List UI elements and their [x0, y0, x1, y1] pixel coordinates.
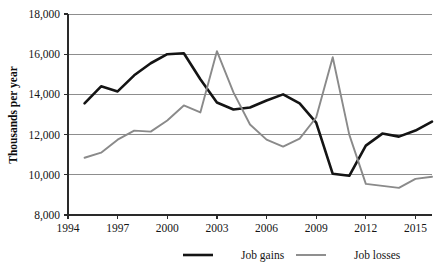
axis-tick-marks [64, 14, 415, 219]
job-gains-losses-chart: 8,00010,00012,00014,00016,00018,000 1994… [0, 0, 441, 273]
y-axis-tick-labels: 8,00010,00012,00014,00016,00018,000 [28, 8, 60, 222]
x-axis-tick-label: 2009 [305, 222, 328, 234]
chart-canvas: 8,00010,00012,00014,00016,00018,000 1994… [0, 0, 441, 273]
series-line-job-gains [85, 53, 432, 176]
y-axis-tick-label: 12,000 [28, 129, 60, 142]
series-line-job-losses [85, 51, 432, 188]
y-axis-title: Thousands per year [7, 66, 20, 164]
y-axis-tick-label: 14,000 [28, 88, 60, 101]
data-series [85, 51, 432, 188]
x-axis-tick-label: 1994 [57, 222, 80, 234]
x-axis-tick-labels: 19941997200020032006200920122015 [57, 222, 428, 234]
y-axis-tick-label: 8,000 [34, 209, 60, 222]
y-axis-tick-label: 18,000 [28, 8, 60, 21]
x-axis-tick-label: 1997 [106, 222, 129, 234]
legend-label-job-gains: Job gains [241, 249, 285, 262]
gridlines [68, 14, 432, 175]
legend-label-job-losses: Job losses [354, 249, 401, 261]
y-axis-tick-label: 10,000 [28, 169, 60, 182]
x-axis-tick-label: 2012 [354, 222, 377, 234]
x-axis-tick-label: 2006 [255, 222, 278, 234]
y-axis-tick-label: 16,000 [28, 48, 60, 61]
x-axis-tick-label: 2015 [404, 222, 427, 234]
chart-legend: Job gainsJob losses [183, 249, 401, 262]
x-axis-tick-label: 2003 [205, 222, 228, 234]
x-axis-tick-label: 2000 [156, 222, 179, 234]
